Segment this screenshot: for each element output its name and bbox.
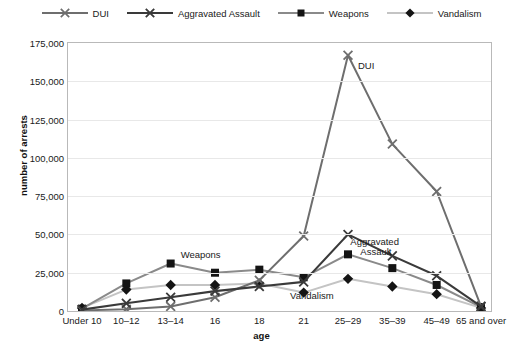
series-annotation-weapons: Weapons xyxy=(181,250,221,261)
gridline xyxy=(68,273,491,274)
x-axis-tick-label: 65 and over xyxy=(456,315,506,326)
legend-item-weapons[interactable]: Weapons xyxy=(278,7,369,19)
plot-area xyxy=(67,42,492,312)
x-axis-tick-label: 45–49 xyxy=(423,315,449,326)
y-axis-tick-label: 175,000 xyxy=(4,38,64,49)
x-axis-title: age xyxy=(0,330,523,341)
legend-item-aggravated-assault[interactable]: Aggravated Assault xyxy=(127,7,260,19)
y-axis-tick-label: 25,000 xyxy=(4,267,64,278)
y-axis-tick-label: 0 xyxy=(4,306,64,317)
gridline xyxy=(68,196,491,197)
x-axis-tick-label: 21 xyxy=(298,315,309,326)
y-axis-tick-label: 125,000 xyxy=(4,114,64,125)
series-annotation-vandalism: Vandalism xyxy=(290,291,334,302)
y-axis-tick-label: 75,000 xyxy=(4,191,64,202)
x-axis-tick-label: 25–29 xyxy=(335,315,361,326)
legend-swatch-vandalism xyxy=(387,7,433,19)
legend-label-weapons: Weapons xyxy=(329,8,369,19)
x-axis-tick-label: 10–12 xyxy=(113,315,139,326)
legend-swatch-aggravated-assault xyxy=(127,7,173,19)
legend-item-vandalism[interactable]: Vandalism xyxy=(387,7,482,19)
gridline xyxy=(68,158,491,159)
series-aggravated-assault xyxy=(78,230,486,311)
x-axis-tick-label: 35–39 xyxy=(379,315,405,326)
series-vandalism xyxy=(77,274,486,311)
legend-label-aggravated-assault: Aggravated Assault xyxy=(178,8,260,19)
x-axis-tick-label: 18 xyxy=(254,315,265,326)
x-marker-icon xyxy=(144,8,155,19)
y-axis-tick-labels: 025,00050,00075,000100,000125,000150,000… xyxy=(0,0,64,351)
series-annotation-dui: DUI xyxy=(358,61,374,72)
y-axis-tick-label: 150,000 xyxy=(4,76,64,87)
x-axis-tick-label: 13–14 xyxy=(157,315,183,326)
legend-label-dui: DUI xyxy=(93,8,109,19)
gridline xyxy=(68,120,491,121)
legend-label-vandalism: Vandalism xyxy=(438,8,482,19)
arrests-by-age-line-chart: DUI Aggravated Assault xyxy=(0,0,523,351)
series-lines xyxy=(68,43,491,311)
y-axis-title: number of arrests xyxy=(18,81,29,231)
series-annotation-aggravated-assault-line2: Assault xyxy=(360,247,391,258)
diamond-marker-icon xyxy=(404,7,416,19)
x-axis-tick-label: 16 xyxy=(210,315,221,326)
y-axis-tick-label: 50,000 xyxy=(4,229,64,240)
legend-swatch-weapons xyxy=(278,7,324,19)
chart-legend: DUI Aggravated Assault xyxy=(0,0,523,26)
gridline xyxy=(68,81,491,82)
y-axis-tick-label: 100,000 xyxy=(4,152,64,163)
x-axis-tick-label: Under 10 xyxy=(62,315,101,326)
gridline xyxy=(68,234,491,235)
square-marker-icon xyxy=(295,8,306,19)
